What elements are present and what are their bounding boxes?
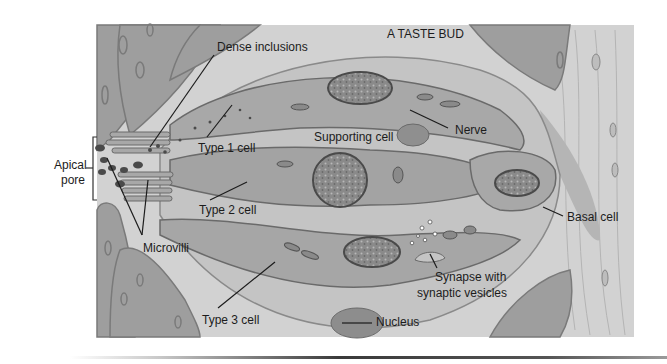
label-nucleus: Nucleus	[376, 316, 419, 329]
nucleus-middle	[313, 153, 367, 207]
taste-bud-diagram: A TASTE BUD Dense inclusions Type 1 cell…	[0, 0, 667, 364]
nerve-ending	[397, 124, 429, 146]
label-nerve: Nerve	[455, 124, 487, 137]
nucleus-bottom	[344, 237, 400, 267]
nucleus-top	[328, 72, 392, 104]
label-pore: pore	[61, 174, 85, 187]
label-type1-cell: Type 1 cell	[198, 142, 255, 155]
label-microvilli: Microvilli	[143, 242, 189, 255]
label-dense-inclusions: Dense inclusions	[217, 41, 308, 54]
label-type2-cell: Type 2 cell	[199, 204, 256, 217]
label-type3-cell: Type 3 cell	[202, 314, 259, 327]
bottom-divider	[70, 356, 667, 359]
label-synapse: Synapse with	[435, 271, 506, 284]
label-supporting-cell: Supporting cell	[314, 131, 393, 144]
taste-bud-illustration	[0, 0, 667, 364]
diagram-title: A TASTE BUD	[387, 28, 464, 41]
label-basal-cell: Basal cell	[567, 211, 618, 224]
label-apical: Apical	[54, 159, 87, 172]
label-synaptic-vesicles: synaptic vesicles	[417, 287, 507, 300]
